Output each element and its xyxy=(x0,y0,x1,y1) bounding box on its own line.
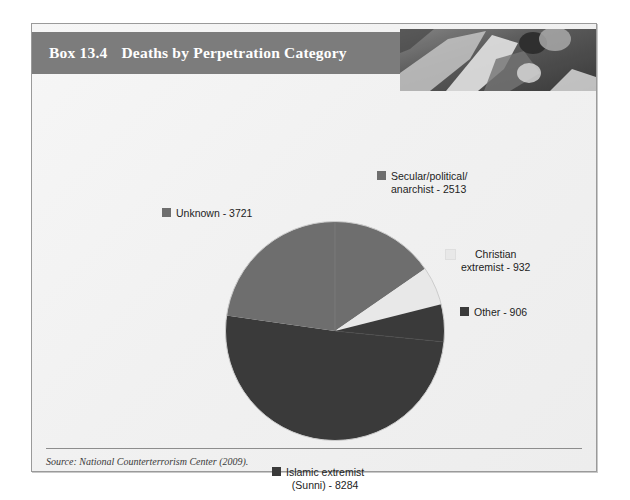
source-divider xyxy=(46,448,582,449)
legend-item-secular: Secular/political/ anarchist - 2513 xyxy=(377,170,467,195)
legend-item-islamic: Islamic extremist (Sunni) - 8284 xyxy=(272,466,364,491)
legend-label-unknown: Unknown - 3721 xyxy=(176,207,252,220)
legend-swatch-unknown xyxy=(162,208,171,217)
chart-area: Secular/political/ anarchist - 2513 Unkn… xyxy=(32,74,596,444)
legend-label-other: Other - 906 xyxy=(474,306,527,319)
page-title: Deaths by Perpetration Category xyxy=(121,44,346,61)
pie-chart xyxy=(225,221,445,441)
legend-item-christian: Christian extremist - 932 xyxy=(445,248,530,273)
legend-swatch-islamic xyxy=(272,467,281,476)
legend-label-secular: Secular/political/ anarchist - 2513 xyxy=(391,170,467,195)
screenshot-root: Box 13.4Deaths by Perpetration Category xyxy=(0,0,630,500)
legend-swatch-christian xyxy=(445,249,456,260)
legend-label-islamic: Islamic extremist (Sunni) - 8284 xyxy=(286,466,364,491)
box-header-title: Box 13.4Deaths by Perpetration Category xyxy=(32,44,347,62)
pie-slices xyxy=(226,222,445,441)
box-header-bar: Box 13.4Deaths by Perpetration Category xyxy=(32,32,404,74)
legend-swatch-other xyxy=(460,307,469,316)
box-figure-frame: Box 13.4Deaths by Perpetration Category xyxy=(31,23,597,472)
legend-item-other: Other - 906 xyxy=(460,306,527,319)
box-number: Box 13.4 xyxy=(49,44,107,61)
source-note: Source: National Counterterrorism Center… xyxy=(46,456,248,467)
legend-label-christian: Christian extremist - 932 xyxy=(461,248,530,273)
pie-chart-svg xyxy=(225,221,445,441)
legend-swatch-secular xyxy=(377,171,386,180)
legend-item-unknown: Unknown - 3721 xyxy=(162,207,252,220)
pie-slice-unknown xyxy=(227,222,335,332)
